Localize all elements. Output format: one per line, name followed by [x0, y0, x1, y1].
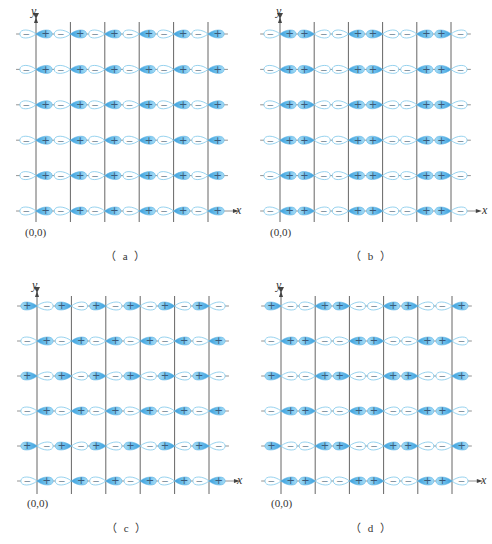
minus-sign: −: [24, 406, 32, 416]
plus-sign: +: [370, 475, 378, 486]
plus-sign: +: [438, 335, 446, 346]
plus-sign: +: [77, 475, 85, 486]
minus-sign: −: [195, 136, 203, 146]
minus-sign: −: [320, 206, 328, 216]
minus-sign: −: [287, 441, 295, 451]
plus-sign: +: [23, 300, 31, 311]
x-axis-label: x: [481, 473, 486, 488]
plus-sign: +: [301, 405, 309, 416]
minus-sign: −: [403, 65, 411, 75]
plus-sign: +: [301, 335, 309, 346]
plus-sign: +: [355, 405, 363, 416]
plus-sign: +: [179, 205, 187, 216]
plus-sign: +: [369, 64, 377, 75]
minus-sign: −: [215, 441, 223, 451]
plus-sign: +: [336, 440, 344, 451]
plus-sign: +: [355, 475, 363, 486]
minus-sign: −: [91, 65, 99, 75]
plus-sign: +: [389, 370, 397, 381]
minus-sign: −: [321, 476, 329, 486]
minus-sign: −: [127, 406, 135, 416]
plus-sign: +: [179, 135, 187, 146]
plus-sign: +: [267, 300, 275, 311]
minus-sign: −: [127, 336, 135, 346]
plus-sign: +: [77, 335, 85, 346]
minus-sign: −: [388, 171, 396, 181]
minus-sign: −: [335, 136, 343, 146]
plus-sign: +: [336, 370, 344, 381]
minus-sign: −: [403, 29, 411, 39]
plus-sign: +: [76, 170, 84, 181]
plus-sign: +: [214, 135, 222, 146]
minus-sign: −: [302, 371, 310, 381]
minus-sign: −: [336, 406, 344, 416]
minus-sign: −: [321, 406, 329, 416]
plus-sign: +: [179, 170, 187, 181]
minus-sign: −: [57, 65, 65, 75]
minus-sign: −: [58, 406, 66, 416]
minus-sign: −: [57, 100, 65, 110]
plus-sign: +: [145, 99, 153, 110]
minus-sign: −: [320, 100, 328, 110]
x-axis-label: x: [237, 473, 242, 488]
plus-sign: +: [457, 300, 465, 311]
plus-sign: +: [457, 440, 465, 451]
plus-sign: +: [422, 205, 430, 216]
minus-sign: −: [424, 301, 432, 311]
minus-sign: −: [424, 441, 432, 451]
plus-sign: +: [110, 64, 118, 75]
plus-sign: +: [145, 205, 153, 216]
minus-sign: −: [403, 171, 411, 181]
minus-sign: −: [404, 476, 412, 486]
minus-sign: −: [404, 336, 412, 346]
minus-sign: −: [439, 301, 447, 311]
plus-sign: +: [145, 28, 153, 39]
origin-label: (0,0): [25, 226, 46, 238]
plus-sign: +: [370, 335, 378, 346]
minus-sign: −: [77, 441, 85, 451]
minus-sign: −: [160, 29, 168, 39]
minus-sign: −: [195, 206, 203, 216]
minus-sign: −: [267, 100, 275, 110]
minus-sign: −: [91, 136, 99, 146]
plus-sign: +: [354, 28, 362, 39]
panel-caption: （ d ）: [350, 519, 393, 535]
minus-sign: −: [57, 29, 65, 39]
minus-sign: −: [112, 441, 120, 451]
plus-sign: +: [195, 370, 203, 381]
plus-sign: +: [214, 28, 222, 39]
minus-sign: −: [77, 371, 85, 381]
y-axis-label: y: [276, 278, 281, 293]
plus-sign: +: [76, 64, 84, 75]
plus-sign: +: [145, 64, 153, 75]
plus-sign: +: [437, 135, 445, 146]
plus-sign: +: [23, 440, 31, 451]
minus-sign: −: [23, 100, 31, 110]
minus-sign: −: [161, 336, 169, 346]
plus-sign: +: [58, 370, 66, 381]
minus-sign: −: [320, 136, 328, 146]
plus-sign: +: [111, 475, 119, 486]
minus-sign: −: [181, 371, 189, 381]
y-axis-label: y: [31, 4, 36, 19]
plus-sign: +: [180, 405, 188, 416]
plus-sign: +: [42, 205, 50, 216]
plus-sign: +: [76, 135, 84, 146]
plus-sign: +: [179, 99, 187, 110]
minus-sign: −: [112, 371, 120, 381]
plus-sign: +: [42, 170, 50, 181]
minus-sign: −: [403, 136, 411, 146]
minus-sign: −: [160, 206, 168, 216]
plus-sign: +: [76, 205, 84, 216]
minus-sign: −: [424, 371, 432, 381]
minus-sign: −: [388, 100, 396, 110]
minus-sign: −: [403, 100, 411, 110]
minus-sign: −: [355, 371, 363, 381]
minus-sign: −: [302, 441, 310, 451]
plus-sign: +: [300, 99, 308, 110]
minus-sign: −: [267, 29, 275, 39]
plus-sign: +: [354, 205, 362, 216]
plus-sign: +: [111, 335, 119, 346]
minus-sign: −: [287, 371, 295, 381]
plus-sign: +: [92, 440, 100, 451]
